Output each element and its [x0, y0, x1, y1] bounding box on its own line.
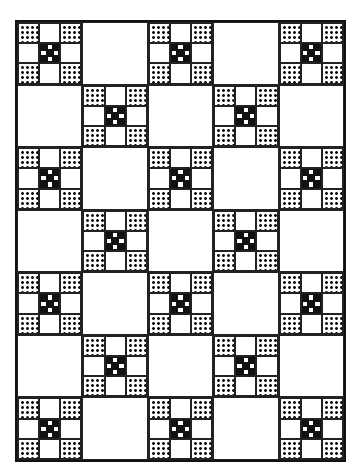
dotted-corner-square [191, 273, 212, 293]
dotted-corner-square [256, 211, 277, 231]
plain-edge-square [191, 168, 212, 188]
plain-edge-square [191, 293, 212, 313]
dotted-corner-square [191, 314, 212, 334]
nine-patch-block [213, 85, 278, 148]
dotted-corner-square [191, 23, 212, 43]
plain-edge-square [322, 43, 343, 63]
mini-square [171, 432, 177, 438]
mini-square [184, 56, 190, 62]
dotted-corner-square [83, 126, 104, 146]
nine-patch-block [17, 22, 82, 85]
plain-edge-square [301, 439, 322, 459]
plain-edge-square [235, 126, 256, 146]
dotted-corner-square [280, 439, 301, 459]
mini-square [249, 232, 255, 238]
mini-square [172, 302, 176, 306]
mini-square [53, 169, 59, 175]
plain-edge-square [191, 43, 212, 63]
dotted-corner-square [191, 398, 212, 418]
dotted-corner-square [191, 148, 212, 168]
dotted-corner-square [126, 126, 147, 146]
dotted-corner-square [18, 63, 39, 83]
quilt-diagram [15, 20, 346, 462]
mini-square [48, 295, 52, 299]
plain-edge-square [214, 356, 235, 376]
mini-square [244, 120, 248, 124]
nine-patch-block [82, 210, 147, 273]
plain-edge-square [105, 86, 126, 106]
plain-edge-square [235, 86, 256, 106]
dotted-corner-square [149, 63, 170, 83]
dotted-corner-square [191, 439, 212, 459]
mini-square [178, 433, 182, 437]
mini-nine-patch-center [301, 419, 322, 439]
mini-square [236, 119, 242, 125]
mini-nine-patch-center [170, 43, 191, 63]
plain-edge-square [39, 148, 60, 168]
dotted-corner-square [126, 336, 147, 356]
nine-patch-block [17, 272, 82, 335]
mini-square [244, 233, 248, 237]
mini-square [54, 427, 58, 431]
nine-patch-block [213, 210, 278, 273]
mini-square [314, 432, 320, 438]
mini-nine-patch-center [39, 419, 60, 439]
mini-square [41, 51, 45, 55]
mini-square [250, 364, 254, 368]
dotted-corner-square [322, 23, 343, 43]
dotted-corner-square [214, 86, 235, 106]
plain-block [279, 335, 344, 398]
plain-edge-square [39, 273, 60, 293]
dotted-corner-square [280, 314, 301, 334]
mini-square [236, 369, 242, 375]
mini-square [48, 57, 52, 61]
plain-edge-square [301, 148, 322, 168]
plain-block [213, 22, 278, 85]
mini-square [41, 176, 45, 180]
mini-square [302, 56, 308, 62]
plain-edge-square [149, 293, 170, 313]
dotted-corner-square [280, 189, 301, 209]
dotted-corner-square [322, 439, 343, 459]
dotted-corner-square [18, 23, 39, 43]
plain-edge-square [18, 419, 39, 439]
mini-square [54, 176, 58, 180]
plain-edge-square [39, 23, 60, 43]
plain-block [82, 397, 147, 460]
dotted-corner-square [280, 148, 301, 168]
plain-edge-square [126, 356, 147, 376]
mini-square [54, 51, 58, 55]
plain-edge-square [126, 106, 147, 126]
plain-edge-square [149, 419, 170, 439]
mini-square [113, 108, 117, 112]
dotted-corner-square [280, 273, 301, 293]
nine-patch-block [148, 22, 213, 85]
dotted-corner-square [60, 314, 81, 334]
dotted-corner-square [256, 376, 277, 396]
plain-edge-square [301, 273, 322, 293]
mini-square [171, 181, 177, 187]
mini-square [40, 307, 46, 313]
plain-edge-square [301, 63, 322, 83]
mini-square [172, 176, 176, 180]
mini-square [244, 108, 248, 112]
mini-square [314, 420, 320, 426]
mini-square [314, 169, 320, 175]
mini-square [113, 233, 117, 237]
mini-square [184, 420, 190, 426]
mini-square [106, 244, 112, 250]
mini-square [118, 244, 124, 250]
plain-edge-square [126, 231, 147, 251]
mini-nine-patch-center [301, 168, 322, 188]
plain-edge-square [18, 43, 39, 63]
mini-nine-patch-center [235, 106, 256, 126]
mini-square [53, 307, 59, 313]
plain-edge-square [214, 106, 235, 126]
mini-square [53, 420, 59, 426]
nine-patch-block [148, 272, 213, 335]
plain-block [148, 335, 213, 398]
dotted-corner-square [60, 189, 81, 209]
dotted-corner-square [322, 398, 343, 418]
mini-square [41, 302, 45, 306]
mini-square [184, 307, 190, 313]
